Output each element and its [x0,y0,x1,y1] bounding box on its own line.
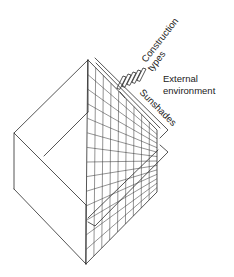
building-facade-diagram: Construction types External environment … [0,0,234,277]
label-environment: environment [163,85,216,96]
sunshades [88,58,168,226]
label-external: External [163,73,198,84]
room-box [14,60,88,264]
